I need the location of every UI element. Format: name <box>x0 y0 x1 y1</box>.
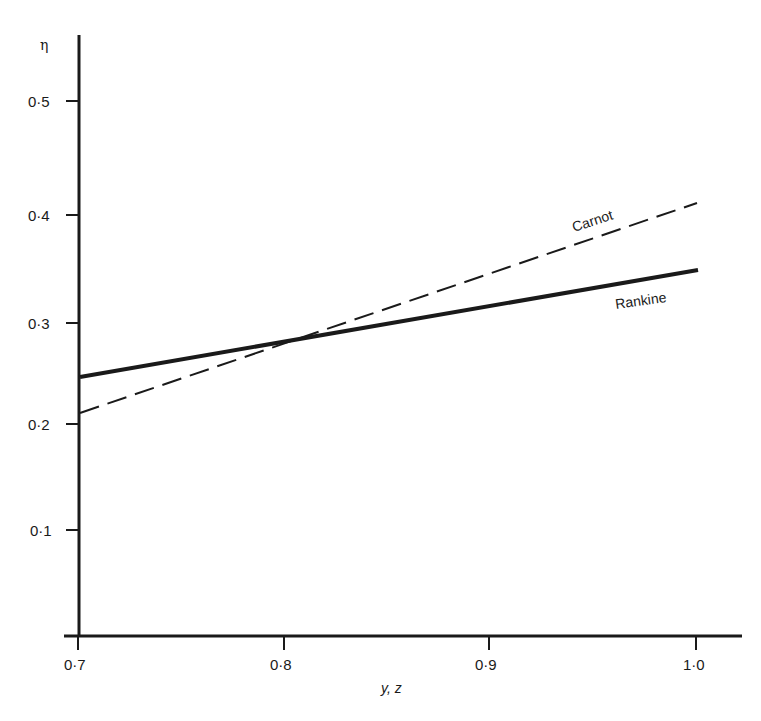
y-tick-label: 0·1 <box>30 522 52 539</box>
y-axis-title: η <box>40 37 48 53</box>
y-tick-label: 0·4 <box>28 207 50 224</box>
x-tick-labels: 0·7 0·8 0·9 1·0 <box>64 656 705 673</box>
rankine-line <box>80 270 698 377</box>
x-tick-label: 0·9 <box>475 656 497 673</box>
x-ticks <box>78 636 696 650</box>
carnot-label: Carnot <box>570 207 615 235</box>
y-tick-label: 0·5 <box>28 93 50 110</box>
rankine-label: Rankine <box>614 289 667 312</box>
y-tick-label: 0·2 <box>28 416 50 433</box>
y-ticks <box>66 101 79 530</box>
x-tick-label: 0·7 <box>64 656 86 673</box>
y-tick-labels: 0·5 0·4 0·3 0·2 0·1 <box>28 93 52 539</box>
x-axis-title: y, z <box>380 680 402 696</box>
x-tick-label: 1·0 <box>683 656 705 673</box>
chart: η 0·5 0·4 0·3 0·2 0·1 0·7 0·8 0·9 1·0 y,… <box>0 0 761 721</box>
y-tick-label: 0·3 <box>28 315 50 332</box>
carnot-line <box>80 203 697 413</box>
x-tick-label: 0·8 <box>270 656 292 673</box>
